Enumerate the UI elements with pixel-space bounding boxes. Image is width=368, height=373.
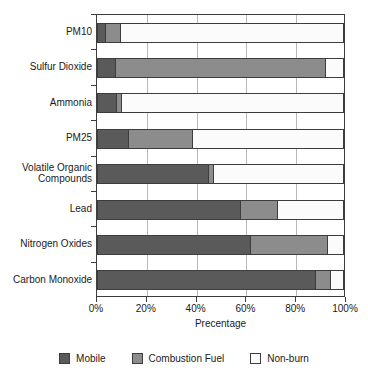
bar-segment [128,129,193,149]
legend-label: Non-burn [267,353,309,364]
legend-swatch-icon [250,353,261,364]
category-label: Nitrogen Oxides [0,238,92,250]
x-axis-tick [295,297,296,302]
y-axis-tick [91,156,96,157]
x-axis-tick-label: 0% [73,303,119,314]
bar-row [97,200,344,220]
x-axis-tick-label: 20% [123,303,169,314]
bar-segment [115,58,327,78]
bar-row [97,164,344,184]
bar-row [97,23,344,43]
legend-item[interactable]: Non-burn [250,353,309,364]
legend-item[interactable]: Combustion Fuel [132,353,225,364]
x-axis-tick [196,297,197,302]
legend-label: Mobile [76,353,105,364]
bar-segment [97,200,241,220]
y-axis-tick [91,120,96,121]
category-label: Carbon Monoxide [0,274,92,286]
bar-segment [327,235,344,255]
category-label: Lead [0,203,92,215]
chart-legend: MobileCombustion FuelNon-burn [0,349,368,367]
y-axis-tick [91,226,96,227]
bar-segment [250,235,327,255]
bar-segment [240,200,277,220]
bar-segment [105,23,121,43]
category-label: Volatile Organic Compounds [0,162,92,185]
bar-row [97,129,344,149]
bar-segment [97,164,209,184]
bar-row [97,270,344,290]
legend-swatch-icon [59,353,70,364]
bar-segment [97,58,116,78]
x-axis-tick [245,297,246,302]
x-axis-tick [146,297,147,302]
bar-row [97,93,344,113]
x-axis-tick [96,297,97,302]
plot-area [96,14,345,297]
y-axis-tick [91,49,96,50]
x-axis-tick-label: 60% [222,303,268,314]
legend-item[interactable]: Mobile [59,353,105,364]
legend-swatch-icon [132,353,143,364]
bar-row [97,58,344,78]
bar-segment [97,93,117,113]
stacked-bar-chart: PM10Sulfur DioxideAmmoniaPM25Volatile Or… [0,0,368,373]
y-axis-tick [91,85,96,86]
bar-segment [325,58,344,78]
bar-row [97,235,344,255]
x-axis-tick-label: 40% [173,303,219,314]
bar-segment [120,23,344,43]
category-label: Ammonia [0,97,92,109]
y-axis-tick [91,262,96,263]
x-axis-tick [345,297,346,302]
category-label: Sulfur Dioxide [0,61,92,73]
bar-segment [192,129,344,149]
bar-segment [277,200,344,220]
bar-segment [121,93,344,113]
bar-segment [97,129,129,149]
bar-segment [97,270,316,290]
y-axis-tick [91,14,96,15]
bar-segment [213,164,344,184]
category-label: PM10 [0,26,92,38]
x-axis-tick-label: 80% [272,303,318,314]
x-axis-tick-label: 100% [322,303,368,314]
bar-segment [315,270,331,290]
x-axis-title: Precentage [96,318,345,329]
y-axis-tick [91,191,96,192]
legend-label: Combustion Fuel [149,353,225,364]
bar-segment [97,235,251,255]
bar-segment [330,270,344,290]
category-label: PM25 [0,132,92,144]
